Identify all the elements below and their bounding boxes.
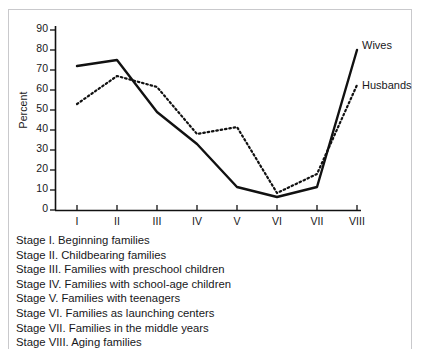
caption-line: Stage V. Families with teenagers bbox=[16, 291, 408, 306]
chart-svg bbox=[0, 0, 422, 232]
caption-line: Stage VIII. Aging families bbox=[16, 335, 408, 350]
axes bbox=[50, 26, 361, 211]
caption-block: Stage I. Beginning families Stage II. Ch… bbox=[16, 233, 408, 350]
caption-line: Stage II. Childbearing families bbox=[16, 248, 408, 263]
caption-line: Stage VII. Families in the middle years bbox=[16, 321, 408, 336]
caption-line: Stage I. Beginning families bbox=[16, 233, 408, 248]
caption-line: Stage VI. Families as launching centers bbox=[16, 306, 408, 321]
caption-line: Stage IV. Families with school-age child… bbox=[16, 277, 408, 292]
series-line-husbands bbox=[77, 76, 357, 193]
caption-line: Stage III. Families with preschool child… bbox=[16, 262, 408, 277]
chart-plot-area: Percent 90 80 70 60 50 40 30 20 10 0 I I… bbox=[0, 0, 422, 232]
